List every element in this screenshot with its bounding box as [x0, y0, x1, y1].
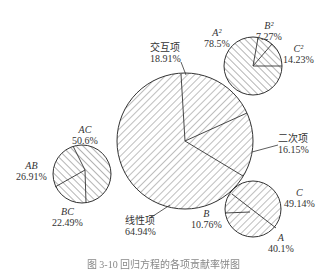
label-pct: 16.15% — [278, 144, 309, 155]
label-bc: BC 22.49% — [52, 206, 83, 228]
label-name: B² — [256, 20, 282, 31]
label-linear: 线性项 64.94% — [125, 215, 156, 237]
label-c2: C² 14.23% — [283, 43, 314, 65]
linear-pie — [225, 181, 281, 237]
label-ab: AB 26.91% — [16, 160, 47, 182]
label-name: BC — [52, 206, 83, 217]
label-pct: 26.91% — [16, 171, 47, 182]
label-pct: 50.6% — [72, 135, 98, 146]
label-name: B — [191, 208, 222, 219]
label-pct: 78.5% — [204, 38, 230, 49]
label-b2: B² 7.27% — [256, 20, 282, 42]
label-name: C — [284, 187, 315, 198]
label-name: 二次项 — [278, 133, 309, 144]
label-quadratic: 二次项 16.15% — [278, 133, 309, 155]
label-a2: A² 78.5% — [204, 27, 230, 49]
label-pct: 64.94% — [125, 226, 156, 237]
label-name: A² — [204, 27, 230, 38]
label-name: A — [268, 232, 294, 243]
label-name: 交互项 — [150, 42, 181, 53]
label-ac: AC 50.6% — [72, 124, 98, 146]
label-c: C 49.14% — [284, 187, 315, 209]
label-interaction: 交互项 18.91% — [150, 42, 181, 64]
label-pct: 49.14% — [284, 198, 315, 209]
label-pct: 18.91% — [150, 53, 181, 64]
label-pct: 22.49% — [52, 217, 83, 228]
label-pct: 40.1% — [268, 243, 294, 254]
label-name: AB — [16, 160, 47, 171]
interaction-pie — [53, 145, 111, 203]
label-name: C² — [283, 43, 314, 54]
label-pct: 14.23% — [283, 54, 314, 65]
label-name: 线性项 — [125, 215, 156, 226]
label-name: AC — [72, 124, 98, 135]
label-pct: 10.76% — [191, 219, 222, 230]
label-a: A 40.1% — [268, 232, 294, 254]
figure-caption: 图 3-10 回归方程的各项贡献率饼图 — [0, 256, 327, 270]
quadratic-pie — [224, 37, 282, 95]
label-pct: 7.27% — [256, 31, 282, 42]
label-b: B 10.76% — [191, 208, 222, 230]
